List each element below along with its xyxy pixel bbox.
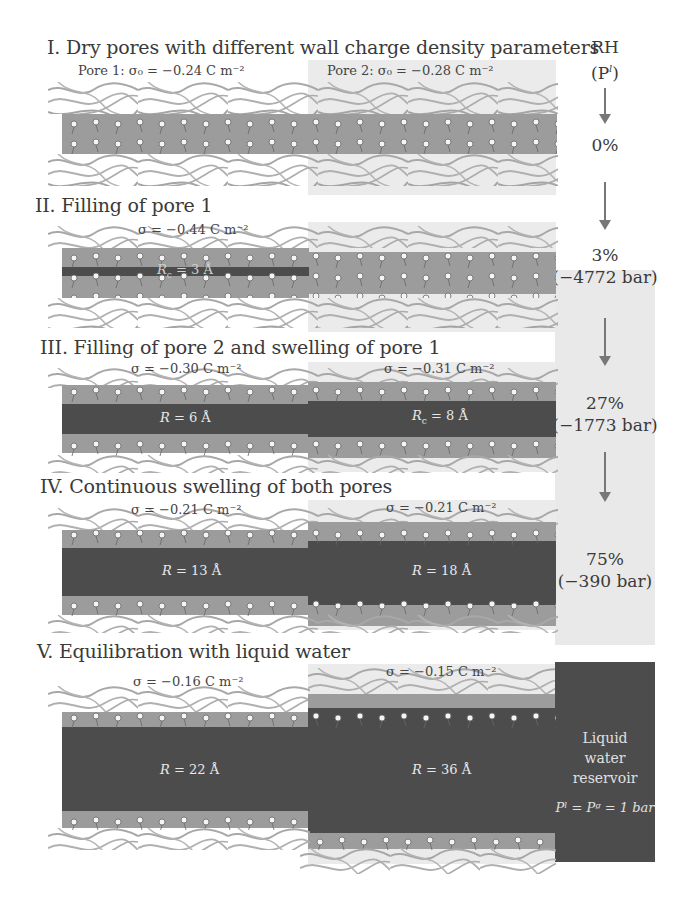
upper-polymer-fibers xyxy=(48,226,558,248)
lower-polymer-fibers xyxy=(48,455,558,473)
pore-2-sigma: σ = −0.21 C m⁻² xyxy=(386,500,496,515)
pore-1-sigma: σ = −0.30 C m⁻² xyxy=(131,361,241,376)
upper-polymer-fibers xyxy=(48,82,558,114)
panel-4-title: IV. Continuous swelling of both pores xyxy=(40,475,392,497)
sulfonate-groups xyxy=(62,708,556,728)
pore-2-sigma: σ = −0.31 C m⁻² xyxy=(384,361,494,376)
lower-polymer-fibers xyxy=(48,615,558,633)
pore-1-charge-label: Pore 1: σ₀ = −0.24 C m⁻² xyxy=(78,63,245,78)
pore-2-radius: R = 18 Å xyxy=(412,563,471,578)
panel-1-title: I. Dry pores with different wall charge … xyxy=(47,36,599,58)
down-arrow-icon xyxy=(604,452,606,494)
pore-2-sigma: σ = −0.15 C m⁻² xyxy=(386,664,496,679)
rh-step-0: 0% xyxy=(545,134,665,156)
lower-polymer-fibers xyxy=(48,154,558,186)
rh-step-2: 27%(−1773 bar) xyxy=(545,392,665,436)
sulfonate-groups xyxy=(62,382,556,404)
panel-3-title: III. Filling of pore 2 and swelling of p… xyxy=(40,336,440,358)
pore-1-radius: R = 22 Å xyxy=(160,762,219,777)
pore-1-radius: R = 13 Å xyxy=(162,563,221,578)
rh-step-1: 3%(−4772 bar) xyxy=(545,244,665,288)
pore-1-sigma: σ = −0.16 C m⁻² xyxy=(133,674,243,689)
lower-polymer-fibers xyxy=(300,848,556,874)
pore-2-radius: Rc = 8 Å xyxy=(412,408,468,426)
reservoir-pressure-equation: Pˡ = Pᵍ = 1 bar xyxy=(555,798,655,818)
pore-1-sigma: σ = −0.44 C m⁻² xyxy=(138,222,248,237)
pore-1-radius: Rc = 3 Å xyxy=(157,262,213,280)
pressure-header: (Pl) xyxy=(545,58,665,84)
pore-1-sigma: σ = −0.21 C m⁻² xyxy=(131,502,241,517)
sulfonate-groups xyxy=(62,248,556,298)
down-arrow-icon xyxy=(604,88,606,116)
down-arrow-icon xyxy=(604,318,606,358)
pore-2-charge-label: Pore 2: σ₀ = −0.28 C m⁻² xyxy=(327,63,494,78)
down-arrow-icon xyxy=(604,182,606,222)
panel-2-title: II. Filling of pore 1 xyxy=(35,194,212,216)
pore-2-radius: R = 36 Å xyxy=(412,762,471,777)
pore-1-radius: R = 6 Å xyxy=(160,410,211,425)
sulfonate-groups xyxy=(62,525,556,547)
reservoir-label: Liquid water reservoir xyxy=(555,728,655,788)
lower-polymer-fibers xyxy=(48,298,558,328)
lower-polymer-fibers xyxy=(48,828,310,850)
sulfonate-groups xyxy=(62,114,557,154)
panel-5-title: V. Equilibration with liquid water xyxy=(37,640,350,662)
rh-step-3: 75%(−390 bar) xyxy=(545,548,665,592)
